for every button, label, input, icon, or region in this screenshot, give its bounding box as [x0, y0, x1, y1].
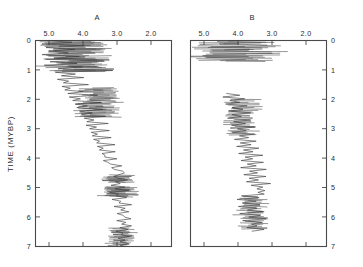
panel-a-ytick-label-7: 7 [27, 242, 31, 251]
panel-a-ytick-label-4: 4 [27, 154, 31, 163]
panel-a-xtick-label-3: 2.0 [146, 29, 157, 38]
panel-b-ytick-label-2: 2 [331, 95, 335, 104]
y-axis-title: TIME (MYBP) [6, 116, 15, 172]
panel-b-ytick-label-3: 3 [331, 124, 335, 133]
panel-b-xtick-label-1: 4.0 [233, 29, 244, 38]
panel-b-ytick-label-4: 4 [331, 154, 335, 163]
panel-b-title: B [249, 13, 254, 22]
panel-a-xtick-label-2: 3.0 [112, 29, 123, 38]
figure-container: A 5.0 4.0 3.0 2.0 [0, 0, 363, 267]
panel-b-ytick-label-7: 7 [331, 242, 335, 251]
panel-a-title: A [94, 13, 99, 22]
panel-a-ytick-label-0: 0 [27, 36, 31, 45]
panel-b-ytick-label-6: 6 [331, 213, 335, 222]
panel-b-ytick-label-5: 5 [331, 183, 335, 192]
panel-b-ytick-label-1: 1 [331, 66, 335, 75]
panel-b-xtick-label-0: 5.0 [199, 29, 210, 38]
panel-a-ytick-label-1: 1 [27, 66, 31, 75]
panel-a-ytick-label-6: 6 [27, 213, 31, 222]
panel-b-xtick-label-2: 3.0 [267, 29, 278, 38]
panel-a-xtick-label-1: 4.0 [78, 29, 89, 38]
panel-a-ytick-label-3: 3 [27, 124, 31, 133]
panel-a-ytick-label-2: 2 [27, 95, 31, 104]
panel-a-xtick-label-0: 5.0 [44, 29, 55, 38]
panel-b-xtick-label-3: 2.0 [301, 29, 312, 38]
panel-a-ytick-label-5: 5 [27, 183, 31, 192]
two-panel-time-series-figure: A 5.0 4.0 3.0 2.0 [0, 0, 363, 267]
panel-b-ytick-label-0: 0 [331, 36, 335, 45]
